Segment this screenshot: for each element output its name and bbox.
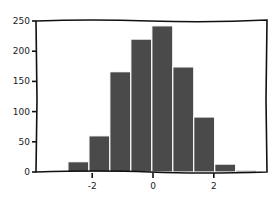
y-tick-label: 150 (13, 76, 30, 86)
x-tick-label: -2 (88, 181, 97, 191)
histogram-bar (89, 136, 110, 172)
y-tick-label: 0 (24, 167, 30, 177)
histogram-bar (194, 117, 215, 172)
histogram-bar (152, 26, 173, 172)
y-tick-label: 200 (13, 46, 30, 56)
y-tick-label: 50 (19, 137, 31, 147)
y-tick-label: 250 (13, 16, 30, 26)
y-axis: 050100150200250 (13, 16, 36, 177)
x-tick-label: 0 (150, 181, 156, 191)
histogram-chart: 050100150200250 -202 (0, 0, 279, 202)
histogram-bars (68, 26, 257, 172)
histogram-bar (110, 72, 131, 172)
histogram-bar (173, 67, 194, 172)
y-tick-label: 100 (13, 107, 30, 117)
x-tick-label: 2 (211, 181, 217, 191)
histogram-bar (131, 39, 152, 172)
x-axis: -202 (88, 173, 217, 191)
histogram-bar (215, 164, 236, 172)
